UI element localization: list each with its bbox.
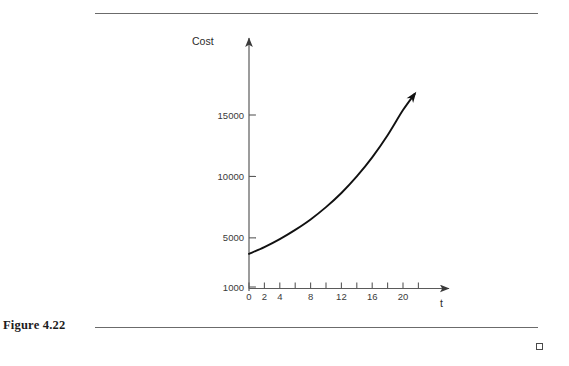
x-axis-title: t [440, 297, 443, 309]
x-axis-tick-labels: 0248121620 [246, 291, 408, 302]
x-axis-tick-label: 2 [262, 291, 267, 302]
x-axis-tick-label: 20 [398, 291, 409, 302]
figure-page: Figure 4.22 100050001000015000 024812162… [0, 0, 569, 366]
cost-curve-line [249, 94, 415, 254]
y-axis-tick-label: 10000 [218, 171, 244, 182]
y-axis-tick-label: 1000 [223, 282, 244, 293]
x-axis-tick-label: 0 [246, 291, 251, 302]
data-series-group [249, 92, 416, 254]
x-axis-ticks [249, 283, 418, 289]
axes-group [249, 38, 449, 291]
x-axis-tick-label: 4 [277, 291, 282, 302]
y-axis-tick-label: 5000 [223, 232, 244, 243]
x-axis-tick-label: 8 [308, 291, 313, 302]
x-axis-tick-label: 12 [336, 291, 347, 302]
cost-vs-time-chart: 100050001000015000 0248121620 Cost t [0, 0, 569, 366]
y-axis-ticks [249, 115, 256, 287]
x-axis-tick-label: 16 [367, 291, 378, 302]
y-axis-title: Cost [192, 35, 214, 47]
y-axis-tick-labels: 100050001000015000 [218, 110, 244, 293]
y-axis-tick-label: 15000 [218, 110, 244, 121]
chart-svg: 100050001000015000 0248121620 Cost t [0, 0, 569, 366]
